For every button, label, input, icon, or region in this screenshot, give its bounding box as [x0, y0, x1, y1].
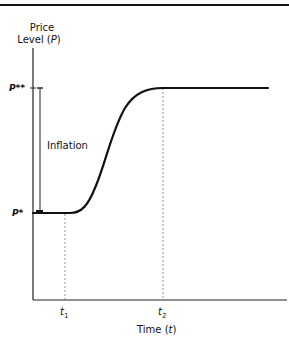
chart-canvas [0, 0, 289, 343]
p-star-star-label: P** [9, 82, 25, 94]
y-axis-label-line1: Price [22, 22, 62, 34]
p-star-label: P* [12, 207, 23, 219]
t1-label: t1 [60, 306, 68, 322]
x-axis-label-post: ) [172, 324, 176, 335]
t1-sub: 1 [64, 312, 68, 320]
y-axis-label-line2: Level (P) [16, 34, 62, 46]
t2-label: t2 [158, 306, 166, 322]
y-axis-label-pre: Level ( [17, 34, 50, 45]
y-axis-label: Price Level (P) [22, 22, 62, 46]
inflation-label: Inflation [47, 140, 88, 152]
x-axis-label: Time (t) [137, 324, 176, 336]
x-axis-label-pre: Time ( [137, 324, 169, 335]
y-axis-label-post: ) [57, 34, 61, 45]
t2-sub: 2 [162, 312, 166, 320]
